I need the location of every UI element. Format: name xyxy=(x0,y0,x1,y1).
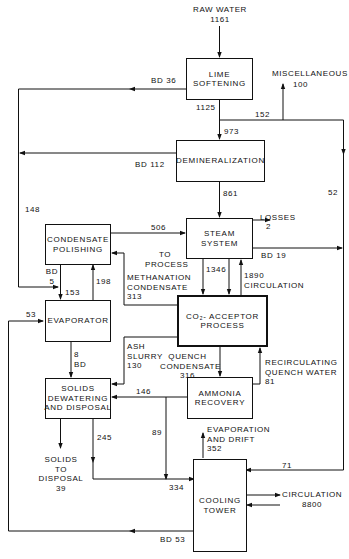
label-1890-circulation: 1890 CIRCULATION xyxy=(244,271,304,290)
label-losses-value: 2 xyxy=(266,222,271,232)
label-53: 53 xyxy=(26,310,36,320)
label-146: 146 xyxy=(136,387,151,397)
node-label: STEAM SYSTEM xyxy=(201,229,238,248)
label-198: 198 xyxy=(96,277,111,287)
node-label: SOLIDS DEWATERING AND DISPOSAL xyxy=(44,384,112,413)
node-lime-softening: LIME SOFTENING xyxy=(186,58,253,100)
label-recirculating-quench-water: RECIRCULATING QUENCH WATER 81 xyxy=(265,358,338,387)
label-methanation-condensate: METHANATION CONDENSATE 313 xyxy=(127,273,191,302)
node-cooling-tower: COOLING TOWER xyxy=(193,459,247,552)
label-153: 153 xyxy=(65,288,80,298)
node-label: LIME SOFTENING xyxy=(193,70,246,89)
label-1125: 1125 xyxy=(196,103,216,113)
label-quench-condensate: QUENCH CONDENSATE 316 xyxy=(160,352,215,381)
label-245: 245 xyxy=(97,433,112,443)
label-52: 52 xyxy=(328,188,338,198)
label-miscellaneous: MISCELLANEOUS xyxy=(272,69,348,79)
label-misc-value: 100 xyxy=(293,80,308,90)
node-evaporator: EVAPORATOR xyxy=(45,300,111,342)
label-to-process: TO PROCESS xyxy=(145,250,185,269)
node-label: DEMINERALIZATION xyxy=(176,156,265,166)
node-label: EVAPORATOR xyxy=(47,316,108,326)
label-solids-to-disposal: SOLIDS TO DISPOSAL 39 xyxy=(36,455,86,493)
node-label: COOLING TOWER xyxy=(199,496,241,515)
label-861: 861 xyxy=(223,189,238,199)
label-circulation-8800: CIRCULATION 8800 xyxy=(282,490,342,509)
label-8-bd: 8 BD xyxy=(74,350,86,369)
label-152: 152 xyxy=(255,110,270,120)
label-334: 334 xyxy=(169,483,184,493)
label-raw-water-value: 1161 xyxy=(190,15,250,25)
label-bd5: BD 5 xyxy=(45,267,59,286)
node-solids-dewatering: SOLIDS DEWATERING AND DISPOSAL xyxy=(45,378,111,419)
label-973: 973 xyxy=(224,127,239,137)
node-label: CO₂- ACCEPTOR PROCESS xyxy=(186,312,259,331)
label-evaporation-and-drift: EVAPORATION AND DRIFT 352 xyxy=(207,425,270,454)
label-bd112: BD 112 xyxy=(135,160,165,170)
label-506: 506 xyxy=(151,223,166,233)
label-ash-slurry: ASH SLURRY 130 xyxy=(127,342,163,371)
label-89: 89 xyxy=(152,428,162,438)
node-steam-system: STEAM SYSTEM xyxy=(186,218,253,259)
node-label: AMMONIA RECOVERY xyxy=(195,389,245,408)
node-demineralization: DEMINERALIZATION xyxy=(176,140,265,182)
label-bd19: BD 19 xyxy=(261,251,286,261)
node-ammonia-recovery: AMMONIA RECOVERY xyxy=(187,377,253,419)
label-148: 148 xyxy=(25,205,40,215)
node-condensate-polishing: CONDENSATE POLISHING xyxy=(45,224,111,265)
node-co2-acceptor-process: CO₂- ACCEPTOR PROCESS xyxy=(177,295,268,347)
node-label: CONDENSATE POLISHING xyxy=(47,235,109,254)
label-1346: 1346 xyxy=(206,265,226,275)
label-71: 71 xyxy=(282,461,292,471)
label-bd53: BD 53 xyxy=(160,535,185,545)
label-bd36: BD 36 xyxy=(151,76,176,86)
label-raw-water: RAW WATER xyxy=(190,5,250,15)
